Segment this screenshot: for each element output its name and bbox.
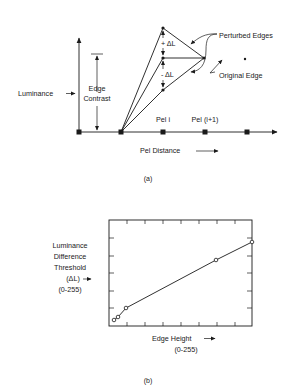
- data-point: [250, 240, 254, 244]
- threshold-line: [114, 242, 252, 320]
- perturbed-edges-label: Perturbed Edges: [219, 31, 273, 40]
- y-ticks: [109, 238, 252, 308]
- y-axis-label: (ΔL): [66, 274, 80, 283]
- luminance-label: Luminance: [18, 89, 53, 98]
- pel-marker: [245, 130, 250, 135]
- x-axis-range: (0-255): [174, 345, 197, 354]
- pel-i1-label: Pel (i+1): [192, 115, 219, 124]
- plus-delta-l-label: + ΔL: [161, 39, 176, 48]
- data-point: [214, 258, 218, 262]
- data-point: [116, 315, 120, 319]
- figure-b: Luminance Difference Threshold (ΔL) (0-2…: [52, 220, 253, 385]
- perturbed-edges-leader: [191, 34, 217, 72]
- data-point: [112, 318, 116, 322]
- pel-marker: [161, 130, 166, 135]
- edge-contrast-label: Contrast: [83, 94, 110, 103]
- original-edge-label: Original Edge: [219, 71, 263, 80]
- minus-delta-l-label: - ΔL: [161, 70, 174, 79]
- y-axis-label: Threshold: [54, 263, 86, 272]
- pel-marker: [203, 130, 208, 135]
- x-axis-label: Edge Height: [152, 334, 192, 343]
- x-ticks: [127, 220, 235, 326]
- figure-a: Edge Contrast Luminance + ΔL: [18, 26, 277, 183]
- y-axis-label: Difference: [54, 252, 87, 261]
- pel-distance-label: Pel Distance: [140, 146, 180, 155]
- y-axis-label: Luminance: [52, 241, 87, 250]
- figure: Edge Contrast Luminance + ΔL: [0, 0, 297, 385]
- caption-a: (a): [144, 175, 153, 183]
- y-axis-range: (0-255): [58, 285, 81, 294]
- plot-frame: [109, 220, 252, 326]
- edge-contrast-label: Edge: [89, 84, 106, 93]
- stray-dot: [244, 58, 246, 60]
- pel-marker: [77, 130, 82, 135]
- data-points: [112, 240, 254, 322]
- pel-i-label: Pel i: [156, 115, 170, 124]
- perturbed-edge-lower: [121, 90, 163, 132]
- caption-b: (b): [144, 377, 153, 385]
- data-point: [124, 306, 128, 310]
